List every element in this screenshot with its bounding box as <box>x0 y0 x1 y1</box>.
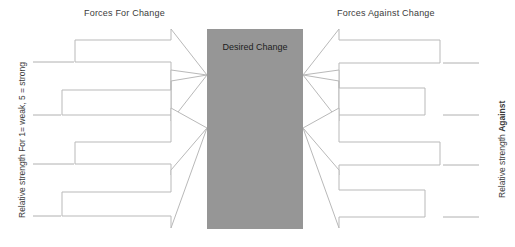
force-field-diagram: Forces For Change Forces Against Change … <box>0 0 515 247</box>
forces-for-change-title: Forces For Change <box>84 8 165 18</box>
forces-against-group <box>303 29 479 228</box>
right-axis-label-normal: Relative strength <box>497 132 507 198</box>
desired-change-box[interactable] <box>207 29 303 229</box>
left-axis-label: Relative strength For 1= weak, 5 = stron… <box>17 62 27 218</box>
diagram-canvas <box>0 0 515 247</box>
forces-for-group <box>33 29 207 228</box>
right-axis-label: Relative strength Against <box>497 101 507 198</box>
desired-change-label: Desired Change <box>207 42 303 52</box>
right-axis-label-bold: Against <box>497 101 507 132</box>
forces-against-change-title: Forces Against Change <box>337 8 435 18</box>
